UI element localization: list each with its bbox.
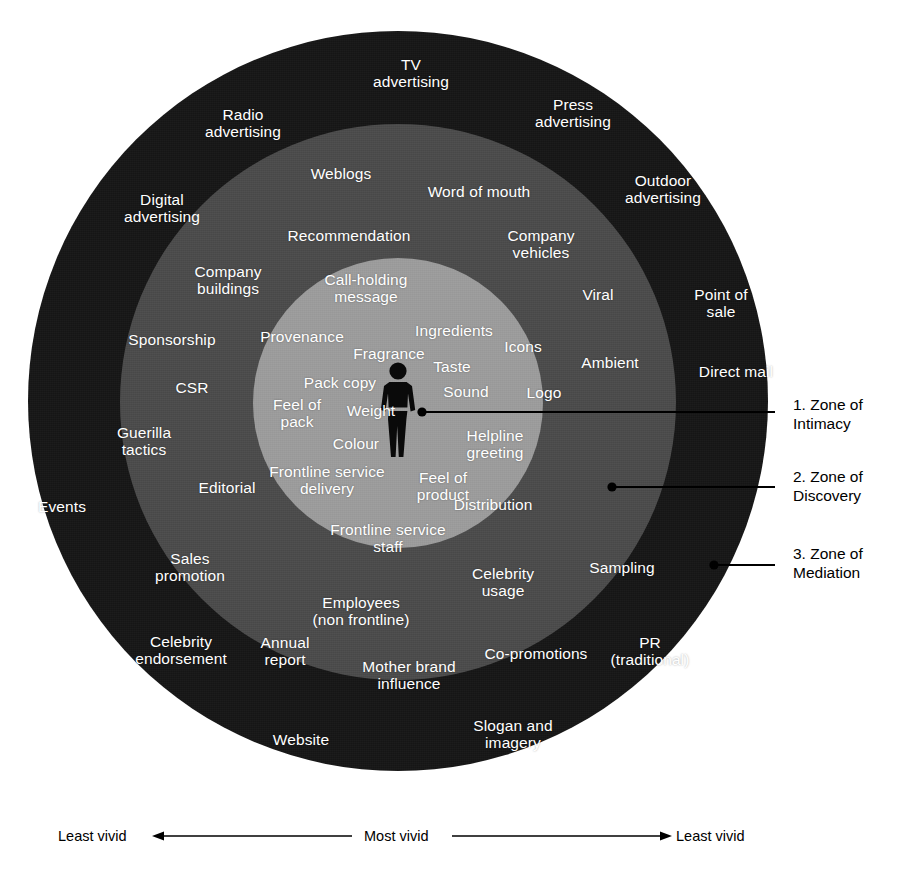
vividness-axis: Least vivid Most vivid Least vivid — [0, 816, 908, 856]
contact-point-label[interactable]: Icons — [504, 339, 542, 356]
contact-point-label[interactable]: Website — [273, 732, 329, 749]
contact-point-label[interactable]: Celebrity endorsement — [135, 634, 227, 667]
contact-point-label[interactable]: Recommendation — [288, 228, 411, 245]
contact-point-label[interactable]: Sponsorship — [128, 332, 215, 349]
diagram-canvas: Call-holding messageProvenanceIngredient… — [0, 0, 908, 872]
contact-point-label[interactable]: Fragrance — [353, 346, 425, 363]
contact-point-label[interactable]: Feel of pack — [273, 397, 321, 430]
contact-point-label[interactable]: Word of mouth — [428, 184, 531, 201]
contact-point-label[interactable]: Direct mail — [699, 364, 773, 381]
contact-point-label[interactable]: Company vehicles — [507, 228, 574, 261]
contact-point-label[interactable]: Pack copy — [304, 375, 376, 392]
contact-point-label[interactable]: Co-promotions — [485, 646, 588, 663]
contact-point-label[interactable]: Viral — [582, 287, 613, 304]
contact-point-label[interactable]: Annual report — [261, 635, 310, 668]
contact-point-label[interactable]: Call-holding message — [324, 272, 407, 305]
axis-label-right: Least vivid — [676, 828, 745, 844]
contact-point-label[interactable]: Guerilla tactics — [117, 425, 171, 458]
contact-point-label[interactable]: Company buildings — [194, 264, 261, 297]
contact-point-label[interactable]: Sales promotion — [155, 551, 225, 584]
contact-point-label[interactable]: Frontline service staff — [330, 522, 445, 555]
contact-point-label[interactable]: Outdoor advertising — [625, 173, 701, 206]
contact-point-label[interactable]: Editorial — [199, 480, 256, 497]
contact-point-label[interactable]: Point of sale — [694, 287, 747, 320]
contact-point-label[interactable]: Helpline greeting — [467, 428, 524, 461]
contact-point-label[interactable]: Employees (non frontline) — [312, 595, 409, 628]
contact-point-label[interactable]: Distribution — [454, 497, 533, 514]
contact-point-label[interactable]: PR (traditional) — [611, 635, 690, 668]
contact-point-label[interactable]: Press advertising — [535, 97, 611, 130]
contact-point-label[interactable]: Frontline service delivery — [269, 464, 384, 497]
zone-1-callout-text[interactable]: 1. Zone of Intimacy — [793, 396, 863, 434]
contact-point-label[interactable]: TV advertising — [373, 57, 449, 90]
contact-point-label[interactable]: Radio advertising — [205, 107, 281, 140]
contact-point-label[interactable]: Weight — [347, 403, 396, 420]
contact-point-label[interactable]: Sound — [443, 384, 488, 401]
contact-point-label[interactable]: Sampling — [589, 560, 654, 577]
contact-point-label[interactable]: Slogan and imagery — [473, 718, 552, 751]
axis-label-left: Least vivid — [58, 828, 127, 844]
axis-label-center: Most vivid — [364, 828, 428, 844]
zone-2-callout-text[interactable]: 2. Zone of Discovery — [793, 468, 863, 506]
contact-point-label[interactable]: Weblogs — [311, 166, 372, 183]
contact-point-label[interactable]: Colour — [333, 436, 379, 453]
contact-point-label[interactable]: Logo — [527, 385, 562, 402]
contact-point-label[interactable]: Celebrity usage — [472, 566, 534, 599]
axis-arrows — [0, 816, 908, 856]
contact-point-label[interactable]: Provenance — [260, 329, 344, 346]
contact-point-label[interactable]: Mother brand influence — [362, 659, 455, 692]
contact-point-label[interactable]: Ambient — [581, 355, 639, 372]
contact-point-label[interactable]: CSR — [175, 380, 208, 397]
contact-point-label[interactable]: Events — [38, 499, 86, 516]
contact-point-label[interactable]: Taste — [433, 359, 471, 376]
zone-3-callout-text[interactable]: 3. Zone of Mediation — [793, 545, 863, 583]
contact-point-label[interactable]: Ingredients — [415, 323, 493, 340]
contact-point-label[interactable]: Digital advertising — [124, 192, 200, 225]
